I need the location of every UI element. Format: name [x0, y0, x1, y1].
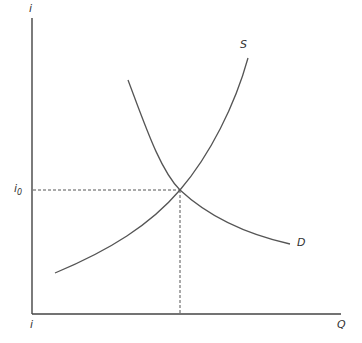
- supply-curve: [55, 58, 248, 273]
- y-axis-label: i: [29, 2, 32, 15]
- diagram-canvas: [0, 0, 362, 343]
- origin-label: i: [30, 318, 33, 331]
- supply-label: S: [240, 38, 247, 51]
- eq-rate-sub: 0: [17, 188, 22, 197]
- demand-curve: [128, 80, 290, 244]
- x-axis-label: Q: [337, 318, 346, 331]
- equilibrium-rate-label: i0: [14, 182, 22, 197]
- demand-label: D: [297, 236, 305, 249]
